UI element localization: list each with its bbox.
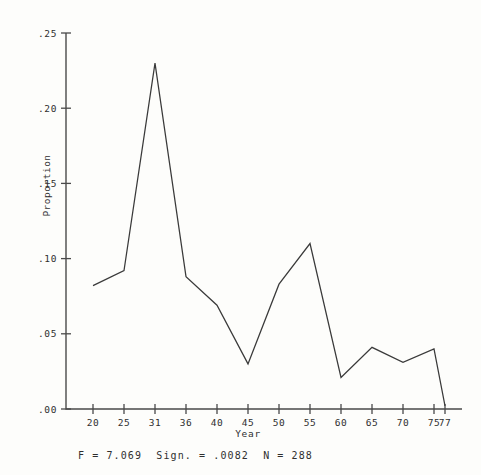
chart-axes	[66, 33, 462, 409]
x-tick-label: 50	[273, 417, 286, 428]
x-tick-label: 31	[149, 417, 162, 428]
data-series-line	[93, 63, 445, 406]
series-path	[93, 63, 445, 406]
y-tick-label: .20	[38, 103, 57, 114]
x-tick-label: 45	[242, 417, 255, 428]
chart-figure: .00.05.10.15.20.25 202531364045505560657…	[0, 0, 481, 475]
x-tick-label: 25	[118, 417, 131, 428]
y-tick-label: .25	[38, 28, 57, 39]
y-tick-label: .10	[38, 253, 57, 264]
x-tick-label: 40	[211, 417, 224, 428]
x-tick-labels: 20253136404550556065707577	[87, 417, 452, 428]
x-tick-label: 77	[439, 417, 452, 428]
y-axis-title: Proportion	[41, 136, 52, 236]
x-tick-label: 36	[180, 417, 193, 428]
x-tick-label: 55	[304, 417, 317, 428]
x-tick-label: 70	[397, 417, 410, 428]
x-tick-label: 60	[335, 417, 348, 428]
y-tick-label: .00	[38, 404, 57, 415]
x-tick-label: 20	[87, 417, 100, 428]
footer-statistics: F = 7.069 Sign. = .0082 N = 288	[78, 450, 313, 461]
x-axis-title: Year	[235, 428, 261, 439]
x-tick-label: 65	[366, 417, 379, 428]
line-chart-plot: .00.05.10.15.20.25 202531364045505560657…	[0, 0, 481, 475]
chart-ticks	[61, 33, 445, 414]
y-tick-label: .05	[38, 328, 57, 339]
